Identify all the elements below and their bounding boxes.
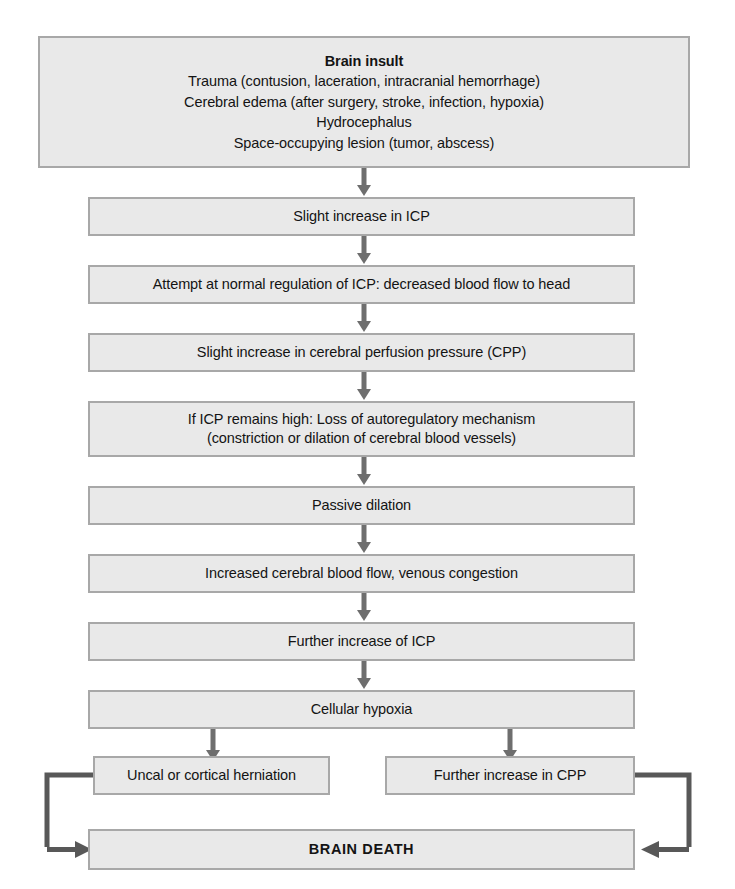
loop-left-arrowhead <box>47 841 92 858</box>
loop-left-herniation-to-brain-death <box>47 775 93 847</box>
node-venous-congestion: Increased cerebral blood flow, venous co… <box>88 554 635 593</box>
node-brain-death: BRAIN DEATH <box>88 829 635 870</box>
node-further-increase-cpp: Further increase in CPP <box>385 756 635 795</box>
node-brain-insult-heading: Brain insult <box>325 51 404 72</box>
node-venous-congestion-label: Increased cerebral blood flow, venous co… <box>205 564 518 583</box>
node-slight-increase-icp-label: Slight increase in ICP <box>293 207 429 226</box>
node-cellular-hypoxia: Cellular hypoxia <box>88 690 635 729</box>
node-slight-increase-cpp-label: Slight increase in cerebral perfusion pr… <box>197 343 526 362</box>
node-brain-insult-line4: Space-occupying lesion (tumor, abscess) <box>234 133 494 154</box>
node-cellular-hypoxia-label: Cellular hypoxia <box>311 700 413 719</box>
node-uncal-cortical-herniation: Uncal or cortical herniation <box>93 756 330 795</box>
node-slight-increase-cpp: Slight increase in cerebral perfusion pr… <box>88 333 635 372</box>
node-attempt-normal-regulation: Attempt at normal regulation of ICP: dec… <box>88 265 635 304</box>
node-brain-insult-line1: Trauma (contusion, laceration, intracran… <box>188 71 540 92</box>
node-brain-insult-line3: Hydrocephalus <box>316 112 411 133</box>
node-loss-autoregulation: If ICP remains high: Loss of autoregulat… <box>88 401 635 457</box>
node-loss-autoregulation-line1: If ICP remains high: Loss of autoregulat… <box>188 410 535 429</box>
node-attempt-normal-regulation-label: Attempt at normal regulation of ICP: dec… <box>153 275 570 294</box>
node-slight-increase-icp: Slight increase in ICP <box>88 197 635 236</box>
node-loss-autoregulation-line2: (constriction or dilation of cerebral bl… <box>207 429 516 448</box>
node-further-increase-cpp-label: Further increase in CPP <box>434 766 586 785</box>
node-passive-dilation-label: Passive dilation <box>312 496 411 515</box>
node-passive-dilation: Passive dilation <box>88 486 635 525</box>
loop-right-arrowhead <box>641 841 689 858</box>
node-uncal-cortical-herniation-label: Uncal or cortical herniation <box>127 766 296 785</box>
node-further-increase-icp: Further increase of ICP <box>88 622 635 661</box>
node-brain-insult-line2: Cerebral edema (after surgery, stroke, i… <box>184 92 544 113</box>
node-further-increase-icp-label: Further increase of ICP <box>288 632 436 651</box>
loop-right-cpp-to-brain-death <box>635 775 689 847</box>
node-brain-insult: Brain insult Trauma (contusion, lacerati… <box>38 36 690 168</box>
node-brain-death-label: BRAIN DEATH <box>309 840 414 859</box>
flowchart-diagram: Brain insult Trauma (contusion, lacerati… <box>0 0 735 889</box>
